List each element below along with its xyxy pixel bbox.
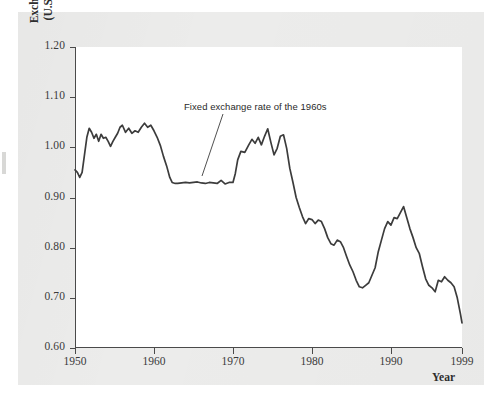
- x-tick-mark: [462, 348, 463, 354]
- y-tick-label: 0.70: [31, 290, 65, 302]
- x-axis-label: Year: [432, 371, 455, 383]
- y-tick-label: 1.10: [31, 89, 65, 101]
- x-axis-ticks: 195019601970198019901999: [75, 348, 462, 378]
- y-tick-label: 0.90: [31, 190, 65, 202]
- exchange-rate-line-series: [75, 47, 462, 348]
- figure-page: Exchange rate (U.S. dollars) 0.600.700.8…: [0, 0, 502, 399]
- y-tick-label: 0.60: [31, 340, 65, 352]
- x-tick-label: 1950: [64, 355, 87, 367]
- x-tick-mark: [233, 348, 234, 354]
- y-tick-label: 0.80: [31, 240, 65, 252]
- x-tick-label: 1980: [300, 355, 323, 367]
- scan-edge-artifact: [2, 152, 6, 174]
- x-tick-label: 1990: [379, 355, 402, 367]
- x-tick-label: 1970: [221, 355, 244, 367]
- x-tick-mark: [75, 348, 76, 354]
- x-tick-label: 1999: [451, 355, 474, 367]
- x-tick-mark: [312, 348, 313, 354]
- y-tick-label: 1.00: [31, 139, 65, 151]
- x-tick-mark: [391, 348, 392, 354]
- y-tick-label: 1.20: [31, 39, 65, 51]
- x-tick-mark: [154, 348, 155, 354]
- x-tick-label: 1960: [142, 355, 165, 367]
